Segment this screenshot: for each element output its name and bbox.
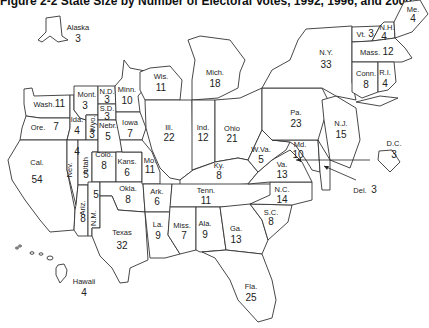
labels-layer: Alaska 3 Hawaii 4 Wash. 11 Ore. 7 Cal. 5… — [0, 0, 429, 328]
label-texas: Texas — [112, 228, 132, 237]
label-mich: Mich. — [206, 68, 224, 77]
votes-ga: 13 — [230, 234, 242, 245]
votes-mo: 11 — [145, 164, 156, 175]
votes-del: 3 — [371, 184, 377, 195]
votes-nm: 5 — [93, 189, 99, 200]
label-nj: N.J. — [334, 119, 347, 128]
label-alaska: Alaska — [67, 23, 90, 32]
votes-kans: 6 — [124, 167, 130, 178]
label-ind: Ind. — [197, 123, 210, 132]
votes-okla: 8 — [125, 194, 131, 205]
votes-nev: 4 — [74, 146, 80, 157]
label-md: Md. — [294, 140, 307, 149]
votes-mich: 18 — [209, 78, 221, 89]
label-kans: Kans. — [117, 157, 136, 166]
label-colo: Colo. — [95, 150, 113, 159]
label-ri: R.I. — [379, 68, 391, 77]
label-va: Va. — [277, 160, 288, 169]
votes-ri: 4 — [382, 78, 388, 89]
votes-iowa: 7 — [127, 128, 133, 139]
votes-texas: 32 — [116, 240, 128, 251]
label-hawaii: Hawaii — [73, 277, 96, 286]
label-wis: Wis. — [154, 72, 169, 81]
votes-dc: 3 — [391, 149, 397, 160]
label-miss: Miss. — [173, 221, 191, 230]
votes-ny: 33 — [320, 59, 332, 70]
votes-ala: 9 — [202, 229, 208, 240]
label-ky: Ky. — [214, 161, 224, 170]
votes-ariz: 8 — [80, 213, 86, 224]
label-wash: Wash. — [34, 100, 55, 109]
votes-nj: 15 — [335, 129, 347, 140]
label-tenn: Tenn. — [197, 186, 215, 195]
label-wva: W.Va. — [251, 145, 270, 154]
label-pa: Pa. — [290, 108, 301, 117]
votes-utah: 5 — [83, 169, 89, 180]
votes-nh: 4 — [381, 31, 387, 42]
label-vt: Vt. — [356, 30, 365, 39]
label-ohio: Ohio — [224, 124, 240, 133]
label-nev: Nev. — [65, 163, 74, 178]
label-mont: Mont. — [78, 90, 97, 99]
votes-alaska: 3 — [75, 33, 81, 44]
label-ala: Ala. — [199, 219, 212, 228]
votes-vt: 3 — [368, 28, 374, 39]
label-del: Del. — [353, 186, 366, 195]
votes-miss: 7 — [181, 230, 187, 241]
votes-mont: 3 — [82, 100, 88, 111]
votes-la: 9 — [155, 230, 161, 241]
votes-cal: 54 — [31, 174, 43, 185]
votes-conn: 8 — [363, 79, 369, 90]
votes-wyo: 3 — [89, 129, 95, 140]
votes-wva: 5 — [258, 154, 264, 165]
votes-md: 10 — [292, 149, 304, 160]
votes-ky: 8 — [216, 170, 222, 181]
label-mass: Mass. — [360, 48, 380, 57]
label-nc: N.C. — [275, 185, 290, 194]
label-okla: Okla. — [119, 184, 137, 193]
label-iowa: Iowa — [122, 118, 139, 127]
votes-tenn: 11 — [201, 195, 212, 206]
label-ark: Ark. — [150, 187, 163, 196]
votes-ore: 7 — [53, 121, 59, 132]
votes-nebr: 5 — [105, 131, 111, 142]
label-ny: N.Y. — [319, 48, 333, 57]
votes-pa: 23 — [290, 118, 302, 129]
votes-va: 13 — [276, 169, 288, 180]
votes-wash: 11 — [55, 98, 66, 109]
label-fla: Fla. — [245, 282, 258, 291]
label-cal: Cal. — [30, 158, 43, 167]
label-nm: N.M. — [89, 210, 98, 226]
votes-ark: 6 — [154, 196, 160, 207]
votes-wis: 11 — [156, 82, 167, 93]
label-minn: Minn. — [118, 85, 136, 94]
votes-minn: 10 — [121, 95, 133, 106]
votes-ind: 12 — [197, 132, 209, 143]
label-nebr: Nebr. — [99, 121, 117, 130]
label-dc: D.C. — [387, 139, 402, 148]
votes-hawaii: 4 — [81, 287, 87, 298]
votes-ohio: 21 — [226, 133, 238, 144]
votes-me: 4 — [410, 13, 416, 24]
label-ore: Ore. — [31, 123, 46, 132]
votes-nc: 14 — [276, 194, 288, 205]
label-conn: Conn. — [356, 69, 376, 78]
label-ill: Ill. — [165, 123, 173, 132]
votes-ida: 4 — [74, 125, 80, 136]
votes-ill: 22 — [163, 132, 175, 143]
label-la: La. — [153, 220, 163, 229]
votes-fla: 25 — [245, 292, 257, 303]
votes-mass: 12 — [382, 46, 394, 57]
label-ida: Ida. — [71, 115, 84, 124]
votes-colo: 8 — [101, 160, 107, 171]
label-ga: Ga. — [230, 224, 242, 233]
votes-sc: 8 — [268, 216, 274, 227]
